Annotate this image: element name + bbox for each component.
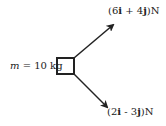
- force-2-label: (2i - 3j)N: [107, 106, 153, 118]
- mass-label: m = 10 kg: [10, 60, 63, 72]
- force-arrow-2: [74, 74, 107, 107]
- force-1-label: (6i + 4j)N: [108, 5, 159, 17]
- force-arrow-1: [74, 25, 113, 58]
- force-diagram: (6i + 4j)N (2i - 3j)N m = 10 kg: [0, 0, 166, 126]
